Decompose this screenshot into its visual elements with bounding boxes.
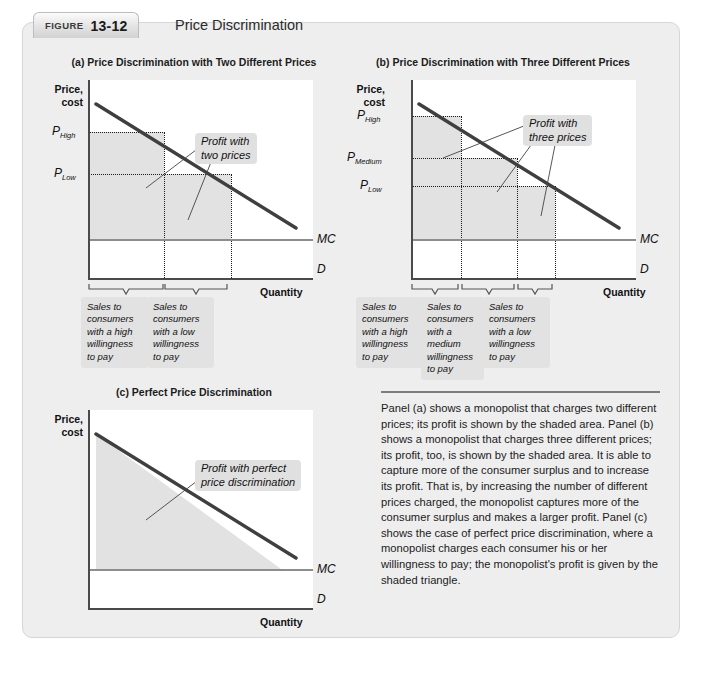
- panel-c-y-axis-label: Price, cost: [23, 413, 83, 438]
- panel-b-shade-low: [517, 186, 555, 240]
- panel-a-price-high-base: P: [52, 124, 60, 138]
- panel-b-price-low-label: PLow: [360, 178, 382, 194]
- panel-c-plot: [88, 410, 313, 610]
- panel-a-y-axis: [88, 80, 90, 280]
- panel-b-segment-legend-1: Sales to consumers with a medium willing…: [421, 297, 484, 380]
- panel-c-ink: [88, 410, 313, 610]
- panel-b-profit-callout-line2: three prices: [529, 131, 586, 145]
- panel-a-dotted-plow: [89, 174, 232, 175]
- panel-b-y-axis-label-line1: Price,: [323, 83, 385, 96]
- panel-c-mc-label: MC: [317, 562, 336, 576]
- panel-a-braces: [87, 282, 237, 296]
- panel-b-mc-line: [412, 239, 636, 241]
- panel-a-plot: [88, 80, 313, 280]
- panel-a-dotted-q1: [164, 132, 165, 280]
- panel-a-price-high-sub: High: [60, 131, 75, 140]
- panel-c-title: (c) Perfect Price Discrimination: [59, 386, 329, 398]
- panel-c-profit-callout-line1: Profit with perfect: [201, 462, 295, 476]
- panel-b-y-axis: [411, 80, 413, 280]
- panel-a-profit-callout-line1: Profit with: [201, 135, 251, 149]
- panel-c-shade-triangle: [96, 434, 281, 569]
- panel-b-x-axis-label: Quantity: [603, 286, 646, 298]
- figure-number: 13-12: [91, 18, 128, 34]
- panel-c-mc-line: [89, 569, 313, 571]
- panel-a-price-low-label: PLow: [54, 166, 76, 182]
- panel-a-y-axis-label: Price, cost: [23, 83, 83, 108]
- figure-title: Price Discrimination: [175, 13, 303, 36]
- panel-a-profit-callout-line2: two prices: [201, 149, 251, 163]
- panel-b-dotted-pmedium: [412, 158, 518, 159]
- explanation-divider: [381, 391, 660, 393]
- panel-a-x-axis: [88, 278, 313, 280]
- panel-b-brace-2: [462, 284, 514, 294]
- panel-a-segment-legend-0: Sales to consumers with a high willingne…: [81, 297, 148, 368]
- panel-a-price-low-base: P: [54, 166, 62, 180]
- panel-b-shade-medium: [461, 158, 517, 240]
- panel-b-segment-legend-0: Sales to consumers with a high willingne…: [356, 297, 423, 368]
- panel-b-x-axis: [411, 278, 636, 280]
- panel-c-demand-label: D: [317, 592, 326, 606]
- figure-card: FIGURE 13-12 Price Discrimination (a) Pr…: [22, 22, 680, 638]
- panel-a-demand-label: D: [317, 262, 326, 276]
- panel-b-price-high-base: P: [357, 108, 365, 122]
- panel-a-dotted-phigh: [89, 132, 165, 133]
- panel-c-y-axis-label-line2: cost: [23, 426, 83, 439]
- panel-b-y-axis-label-line2: cost: [323, 96, 385, 109]
- panel-b-segment-legend-2: Sales to consumers with a low willingnes…: [483, 297, 550, 368]
- panel-b-brace-1: [412, 284, 458, 294]
- panel-a-shade-high: [89, 132, 164, 240]
- panel-b-price-medium-base: P: [347, 150, 355, 164]
- panel-b-braces: [410, 282, 565, 296]
- panel-b-dotted-q3: [555, 186, 556, 280]
- panel-b-plot: [411, 80, 636, 280]
- panel-b-title: (b) Price Discrimination with Three Diff…: [353, 56, 653, 68]
- panel-a-brace-1: [89, 284, 163, 294]
- panel-b-brace-3: [518, 284, 552, 294]
- panel-b-dotted-q2: [517, 158, 518, 280]
- panel-b-price-low-sub: Low: [368, 185, 382, 194]
- panel-c-profit-callout: Profit with perfect price discrimination: [195, 460, 301, 491]
- figure-number-tab: FIGURE 13-12: [33, 12, 139, 38]
- panel-b-profit-callout-line1: Profit with: [529, 117, 586, 131]
- panel-a-brace-2: [165, 284, 227, 294]
- panel-a-price-low-sub: Low: [62, 173, 76, 182]
- panel-b-dotted-phigh: [412, 116, 462, 117]
- panel-a-segment-legend-1: Sales to consumers with a low willingnes…: [147, 297, 214, 368]
- panel-a-mc-line: [89, 239, 313, 241]
- panel-c-y-axis: [88, 410, 90, 610]
- panel-b-profit-callout: Profit with three prices: [523, 115, 592, 146]
- panel-a-dotted-q2: [231, 174, 232, 280]
- panel-b-shade-high: [412, 116, 461, 240]
- panel-a-x-axis-label: Quantity: [260, 286, 303, 298]
- panel-b-price-medium-sub: Medium: [355, 157, 382, 166]
- panel-b-mc-label: MC: [640, 232, 659, 246]
- panel-b-y-axis-label: Price, cost: [323, 83, 385, 108]
- panel-b-price-high-label: PHigh: [357, 108, 380, 124]
- panel-a-y-axis-label-line1: Price,: [23, 83, 83, 96]
- panel-b-dotted-plow: [412, 186, 556, 187]
- panel-c-demand-curve: [96, 434, 296, 558]
- panel-a-profit-callout: Profit with two prices: [195, 133, 257, 164]
- panel-a-y-axis-label-line2: cost: [23, 96, 83, 109]
- panel-a-shade-low: [164, 174, 231, 240]
- explanation-text: Panel (a) shows a monopolist that charge…: [381, 401, 660, 588]
- panel-c-x-axis: [88, 608, 313, 610]
- panel-c-profit-callout-line2: price discrimination: [201, 476, 295, 490]
- panel-b-price-high-sub: High: [365, 115, 380, 124]
- figure-label-word: FIGURE: [45, 20, 84, 31]
- panel-a-price-high-label: PHigh: [52, 124, 75, 140]
- panel-b-demand-label: D: [640, 262, 649, 276]
- panel-b-price-medium-label: PMedium: [347, 150, 382, 166]
- panel-c-x-axis-label: Quantity: [260, 616, 303, 628]
- panel-b-price-low-base: P: [360, 178, 368, 192]
- panel-b-dotted-q1: [461, 116, 462, 280]
- panel-c-y-axis-label-line1: Price,: [23, 413, 83, 426]
- panel-a-mc-label: MC: [317, 232, 336, 246]
- panel-a-title: (a) Price Discrimination with Two Differ…: [59, 56, 329, 68]
